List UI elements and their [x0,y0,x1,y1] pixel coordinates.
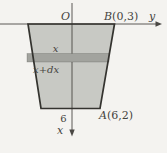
upper-depth-label: x [53,43,59,54]
point-a-label: A(6,2) [98,109,133,122]
figure-canvas: O B(0,3) y x x+dx 6 x A(6,2) [0,0,167,153]
point-b-name: B [103,10,112,23]
y-axis-label: y [148,10,156,23]
point-a-name: A [98,109,107,122]
point-a-coords: (6,2) [107,109,133,122]
origin-label: O [61,10,70,23]
bottom-tick-label: 6 [60,113,66,124]
point-b-coords: (0,3) [112,10,138,23]
y-axis-arrowhead-icon [156,21,163,27]
point-b-label: B(0,3) [103,10,138,23]
differential-strip [27,54,109,63]
x-axis-label: x [57,124,64,137]
tank-cross-section-diagram: O B(0,3) y x x+dx 6 x A(6,2) [0,0,167,153]
lower-depth-label: x+dx [33,64,59,75]
x-axis-arrowhead-icon [69,130,74,137]
